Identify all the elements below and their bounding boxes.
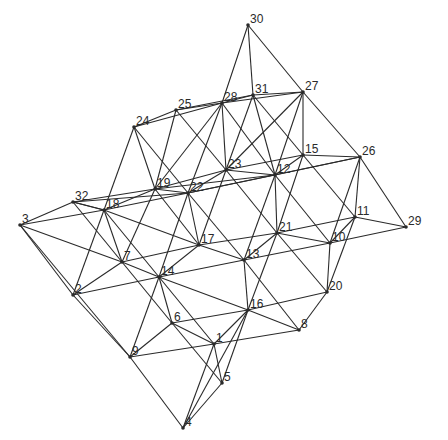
member-32-22 (73, 193, 188, 202)
node-label: 16 (250, 297, 264, 311)
member-9-4 (130, 357, 183, 428)
node-label: 30 (250, 12, 264, 26)
node-label: 15 (305, 142, 319, 156)
member-3-2 (20, 225, 73, 295)
node-label: 3 (22, 212, 29, 226)
nodes-layer (18, 23, 408, 430)
node-label: 26 (362, 144, 376, 158)
truss-diagram: 1234567891011121314151617181920212223242… (0, 0, 448, 440)
node-label: 12 (277, 162, 291, 176)
member-23-25 (176, 110, 226, 170)
member-13-22 (188, 193, 244, 260)
member-2-9 (73, 295, 130, 357)
member-1-8 (214, 330, 299, 344)
node-label: 11 (357, 204, 370, 218)
labels-layer: 1234567891011121314151617181920212223242… (22, 12, 422, 429)
member-11-15 (303, 155, 355, 217)
node-label: 6 (174, 310, 181, 324)
node-label: 23 (228, 157, 242, 171)
member-4-16 (183, 310, 248, 428)
member-6-14 (159, 277, 172, 323)
node-label: 21 (279, 220, 293, 234)
node-label: 5 (224, 370, 231, 384)
node-label: 31 (255, 82, 269, 96)
node-label: 20 (329, 279, 343, 293)
node-label: 4 (185, 415, 192, 429)
node-label: 24 (136, 114, 150, 128)
node-label: 27 (305, 79, 319, 93)
node-label: 25 (178, 97, 192, 111)
edges-layer (20, 25, 406, 428)
member-20-21 (277, 233, 327, 292)
truss-canvas: 1234567891011121314151617181920212223242… (0, 0, 448, 440)
node-label: 13 (246, 247, 260, 261)
member-19-24 (134, 127, 155, 189)
member-18-32 (73, 202, 104, 210)
member-21-12 (275, 175, 277, 233)
member-11-29 (355, 217, 406, 227)
node-label: 2 (75, 282, 82, 296)
member-21-10 (277, 233, 330, 243)
node-label: 14 (161, 264, 175, 278)
member-6-1 (172, 323, 214, 344)
node-label: 8 (301, 317, 308, 331)
node-label: 7 (124, 249, 131, 263)
node-label: 19 (157, 176, 171, 190)
member-7-17 (122, 245, 199, 262)
member-9-1 (130, 344, 214, 357)
member-15-31 (253, 95, 303, 155)
member-5-6 (172, 323, 222, 383)
node-label: 18 (106, 197, 120, 211)
member-7-18 (104, 210, 122, 262)
node-label: 1 (216, 331, 223, 345)
node-label: 17 (201, 232, 215, 246)
node-label: 22 (190, 180, 204, 194)
member-16-13 (244, 260, 248, 310)
node-label: 32 (75, 189, 89, 203)
member-23-28 (222, 103, 226, 170)
member-30-31 (248, 25, 253, 95)
member-3-18 (20, 210, 104, 225)
node-label: 29 (408, 214, 422, 228)
node-label: 9 (132, 344, 139, 358)
node-label: 10 (332, 230, 346, 244)
member-5-1 (214, 344, 222, 383)
node-label: 28 (224, 90, 238, 104)
